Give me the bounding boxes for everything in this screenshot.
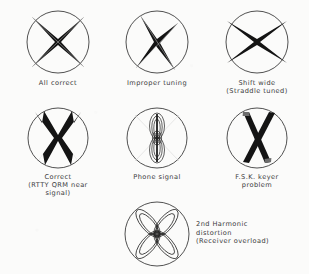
narrow-crossed-bars-icon <box>205 106 309 170</box>
scope-display-fsk-keyer-problem <box>205 106 309 170</box>
scope-display-second-harmonic-distortion <box>105 198 209 270</box>
scope-display-all-correct <box>6 8 110 76</box>
wide-x-icon <box>205 8 309 76</box>
pattern-caption: F.S.K. keyer problem <box>205 173 309 189</box>
pattern-caption: Correct (RTTY QRM near signal) <box>6 173 110 198</box>
scope-display-shift-wide <box>205 8 309 76</box>
four-petal-clover-icon <box>105 198 209 270</box>
pattern-cell-improper-tuning: Improper tuning <box>105 8 209 87</box>
pattern-cell-shift-wide: Shift wide (Straddle tuned) <box>205 8 309 95</box>
split-tip-x-icon <box>6 106 110 170</box>
scope-display-improper-tuning <box>105 8 209 76</box>
pattern-caption: All correct <box>6 79 110 87</box>
scope-display-correct-rtty-qrm <box>6 106 110 170</box>
pattern-cell-correct-rtty-qrm: Correct (RTTY QRM near signal) <box>6 106 110 198</box>
pattern-cell-phone-signal: Phone signal <box>105 106 209 181</box>
pattern-caption: Shift wide (Straddle tuned) <box>205 79 309 95</box>
tuning-pattern-figure: All correct Improper tuning <box>0 0 309 274</box>
skewed-x-icon <box>105 8 209 76</box>
pattern-cell-second-harmonic-distortion <box>105 198 209 270</box>
pattern-caption: 2nd Harmonic distortion (Receiver overlo… <box>196 220 308 246</box>
pattern-caption: Phone signal <box>105 173 209 181</box>
vertical-nested-ellipses-icon <box>105 106 209 170</box>
crossed-ellipse-x-icon <box>6 8 110 76</box>
scope-display-phone-signal <box>105 106 209 170</box>
pattern-cell-all-correct: All correct <box>6 8 110 87</box>
pattern-cell-fsk-keyer-problem: F.S.K. keyer problem <box>205 106 309 189</box>
pattern-caption: Improper tuning <box>105 79 209 87</box>
